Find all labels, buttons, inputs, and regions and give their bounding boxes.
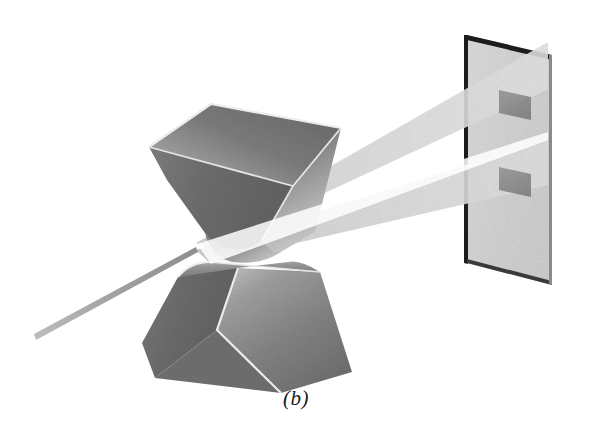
screen-right-edge (549, 55, 552, 285)
optics-figure-illustration (0, 0, 592, 428)
figure-caption: (b) (0, 386, 592, 411)
screen-left-edge (464, 35, 468, 264)
figure-container: (b) (0, 0, 592, 428)
